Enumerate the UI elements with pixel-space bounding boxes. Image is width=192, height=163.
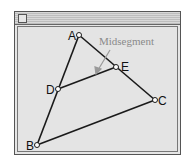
point-e[interactable] <box>114 65 119 70</box>
triangle-diagram: A B C D E Midsegment <box>0 0 192 163</box>
midsegment-annotation: Midsegment <box>99 35 154 47</box>
label-e: E <box>121 60 129 74</box>
midsegment-de[interactable] <box>58 67 116 89</box>
segment-bc[interactable] <box>37 100 155 145</box>
point-c[interactable] <box>153 98 158 103</box>
point-a[interactable] <box>77 33 82 38</box>
label-c: C <box>158 94 167 108</box>
point-d[interactable] <box>56 87 61 92</box>
label-a: A <box>68 29 76 43</box>
point-b[interactable] <box>35 143 40 148</box>
label-b: B <box>26 139 34 153</box>
label-d: D <box>46 83 55 97</box>
